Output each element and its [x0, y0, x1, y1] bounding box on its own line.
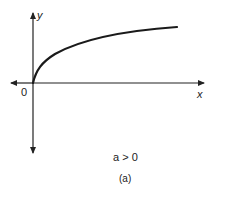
x-axis-label: x: [197, 89, 203, 100]
condition-label: a > 0: [113, 152, 138, 163]
y-axis-label: y: [37, 10, 43, 21]
figure-caption: (a): [119, 174, 131, 184]
plot-canvas: [0, 0, 226, 198]
origin-label: 0: [21, 87, 27, 98]
figure: y 0 x a > 0 (a): [0, 0, 226, 198]
function-curve: [33, 27, 177, 83]
